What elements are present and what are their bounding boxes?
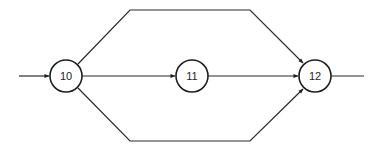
network-diagram [0,0,385,154]
node-12 [299,60,331,92]
node-11 [176,60,208,92]
node-10 [50,60,82,92]
edge-10-to-12-upper [78,10,303,64]
edge-10-to-12-lower [78,88,303,141]
